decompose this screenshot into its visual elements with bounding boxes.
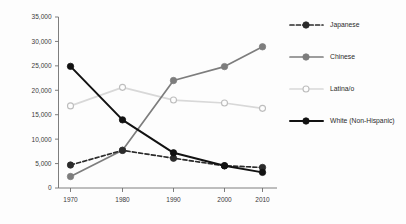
chart-axes (55, 17, 277, 192)
data-point (259, 169, 265, 175)
legend-item-japanese[interactable]: Japanese (290, 21, 360, 29)
legend-swatch-marker (303, 54, 309, 60)
legend-swatch-marker (303, 118, 309, 124)
x-tick-label: 1980 (115, 196, 130, 203)
data-point (260, 105, 266, 111)
y-tick-label: 15,000 (32, 111, 52, 118)
data-point (259, 44, 265, 50)
legend-label: White (Non-Hispanic) (330, 117, 395, 125)
series-chinese (67, 44, 265, 180)
legend-label: Chinese (330, 53, 355, 60)
data-point (170, 77, 176, 83)
chart-legend: JapaneseChineseLatina/oWhite (Non-Hispan… (290, 21, 395, 125)
data-point (119, 117, 125, 123)
chart-canvas: 05,00010,00015,00020,00025,00030,00035,0… (0, 0, 406, 224)
x-tick-label: 1990 (166, 196, 181, 203)
series-latina-o (68, 84, 266, 111)
data-point (120, 84, 126, 90)
legend-swatch-marker (303, 22, 309, 28)
data-point (222, 100, 228, 106)
data-point (67, 162, 73, 168)
data-point (119, 147, 125, 153)
series-white-non-hispanic (67, 63, 265, 175)
legend-item-chinese[interactable]: Chinese (290, 53, 355, 60)
legend-item-white-non-hispanic[interactable]: White (Non-Hispanic) (290, 117, 395, 125)
data-point (68, 103, 74, 109)
x-axis-tick-labels: 19701980199020002010 (63, 196, 270, 203)
y-tick-label: 35,000 (32, 13, 52, 20)
data-point (67, 173, 73, 179)
chart-series (67, 44, 265, 180)
data-point (221, 63, 227, 69)
x-tick-label: 1970 (63, 196, 78, 203)
legend-label: Latina/o (330, 85, 354, 92)
x-tick-label: 2010 (255, 196, 270, 203)
y-axis-tick-labels: 05,00010,00015,00020,00025,00030,00035,0… (32, 13, 52, 191)
data-point (171, 97, 177, 103)
legend-label: Japanese (330, 21, 360, 29)
legend-swatch-marker (303, 86, 309, 92)
y-tick-label: 25,000 (32, 62, 52, 69)
y-tick-label: 30,000 (32, 38, 52, 45)
y-tick-label: 0 (48, 184, 52, 191)
y-tick-label: 20,000 (32, 87, 52, 94)
legend-item-latina-o[interactable]: Latina/o (290, 85, 354, 92)
y-tick-label: 5,000 (35, 160, 52, 167)
x-tick-label: 2000 (217, 196, 232, 203)
line-chart: 05,00010,00015,00020,00025,00030,00035,0… (0, 0, 406, 224)
data-point (221, 163, 227, 169)
y-tick-label: 10,000 (32, 136, 52, 143)
series-line (71, 150, 263, 167)
data-point (67, 63, 73, 69)
data-point (170, 150, 176, 156)
